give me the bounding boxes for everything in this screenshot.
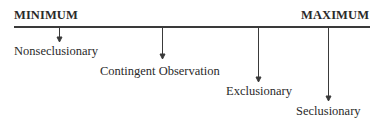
arrow-down-icon-seclusionary — [326, 27, 331, 101]
item-label-contingent-observation: Contingent Observation — [100, 64, 220, 79]
arrow-down-icon-nonseclusionary — [57, 27, 62, 42]
item-label-nonseclusionary: Nonseclusionary — [14, 44, 98, 59]
item-label-seclusionary: Seclusionary — [296, 104, 361, 119]
arrow-down-icon-contingent-observation — [160, 27, 165, 59]
arrow-down-icon-exclusionary — [256, 27, 261, 82]
item-label-exclusionary: Exclusionary — [226, 84, 292, 99]
